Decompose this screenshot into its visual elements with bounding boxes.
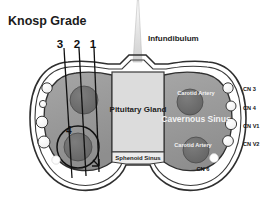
page-title: Knosp Grade <box>8 14 87 28</box>
infundibulum-stalk <box>133 0 142 62</box>
grade-number-2: 2 <box>74 38 80 50</box>
right-carotid-inferior <box>183 137 209 163</box>
label-carotid-artery-superior: Carotid Artery <box>177 90 215 96</box>
grade-number-3: 3 <box>57 38 63 50</box>
label-cn4: CN 4 <box>243 105 257 111</box>
grade-number-1: 1 <box>90 38 97 50</box>
label-cn-v1: CN V1 <box>243 123 259 129</box>
anatomy-svg: Knosp Grade 3 2 1 Infundibulum Pituitary… <box>0 0 274 203</box>
left-carotid-superior <box>70 86 98 114</box>
label-sphenoid-sinus: Sphenoid Sinus <box>115 155 161 161</box>
label-infundibulum: Infundibulum <box>148 34 199 43</box>
label-grade-4: 4 <box>66 125 72 136</box>
left-carotid-inferior <box>64 133 92 161</box>
label-cn3: CN 3 <box>243 86 256 92</box>
label-pituitary-gland: Pituitary Gland <box>110 105 167 114</box>
knosp-grade-diagram: Knosp Grade 3 2 1 Infundibulum Pituitary… <box>0 0 274 203</box>
label-carotid-artery-inferior: Carotid Artery <box>174 142 212 148</box>
label-cn6: CN 6 <box>196 166 210 172</box>
label-cn-v2: CN V2 <box>243 141 259 147</box>
label-cavernous-sinus: Cavernous Sinus <box>161 114 231 124</box>
